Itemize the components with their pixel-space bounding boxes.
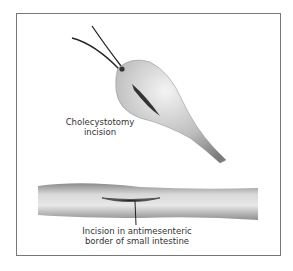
- label-line: border of small intestine: [82, 236, 192, 246]
- label-line: incision: [60, 127, 140, 137]
- label-line: Incision in antimesenteric: [82, 226, 192, 236]
- small-intestine-icon: [38, 183, 258, 220]
- label-line: Cholecystotomy: [60, 117, 140, 127]
- gallbladder-icon: [116, 60, 226, 163]
- intestine-label: Incision in antimesenteric border of sma…: [82, 226, 192, 246]
- gallbladder-label: Cholecystotomy incision: [60, 117, 140, 137]
- stay-suture-icon: [72, 26, 121, 70]
